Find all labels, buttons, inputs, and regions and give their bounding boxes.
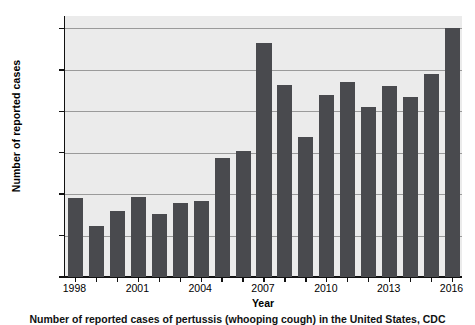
x-axis-tick-label: 2013 <box>369 282 409 294</box>
x-axis-tick-label: 2004 <box>180 282 220 294</box>
bar <box>68 198 83 277</box>
y-axis-tick <box>59 69 65 70</box>
bar <box>236 151 251 277</box>
bar <box>424 74 439 277</box>
bar <box>403 97 418 277</box>
x-axis-tick <box>159 277 160 282</box>
bar <box>361 107 376 277</box>
bar <box>215 158 230 277</box>
x-axis-tick-label: 1998 <box>54 282 94 294</box>
y-axis-tick <box>59 193 65 194</box>
x-axis-tick-label: 2007 <box>243 282 283 294</box>
bar <box>256 43 271 277</box>
y-axis-tick <box>59 235 65 236</box>
bar <box>89 226 104 277</box>
x-axis-title: Year <box>64 297 462 309</box>
y-axis-title: Number of reported cases <box>10 26 22 226</box>
bar <box>298 137 313 277</box>
y-axis-tick <box>59 276 65 277</box>
bar <box>131 197 146 277</box>
bar <box>340 82 355 277</box>
bar <box>194 201 209 277</box>
gridline <box>65 28 462 29</box>
y-axis-tick <box>59 28 65 29</box>
bar <box>445 28 460 277</box>
bar <box>277 85 292 277</box>
x-axis-tick <box>284 277 285 282</box>
bar <box>173 203 188 277</box>
y-axis-tick <box>59 152 65 153</box>
x-axis-tick <box>347 277 348 282</box>
bar <box>110 211 125 277</box>
y-axis-tick <box>59 111 65 112</box>
bar <box>152 214 167 277</box>
figure-caption: Number of reported cases of pertussis (w… <box>0 313 475 325</box>
bar <box>382 86 397 277</box>
bar <box>319 95 334 277</box>
x-axis-tick-label: 2001 <box>117 282 157 294</box>
plot-area: 02,0004,0006,0008,00010,00012,000 <box>64 16 462 277</box>
x-axis-tick <box>221 277 222 282</box>
x-axis-tick <box>410 277 411 282</box>
x-axis-tick-label: 2016 <box>432 282 472 294</box>
x-axis-tick <box>96 277 97 282</box>
plot-inner: 02,0004,0006,0008,00010,00012,000 <box>65 16 462 277</box>
x-axis-tick-label: 2010 <box>306 282 346 294</box>
